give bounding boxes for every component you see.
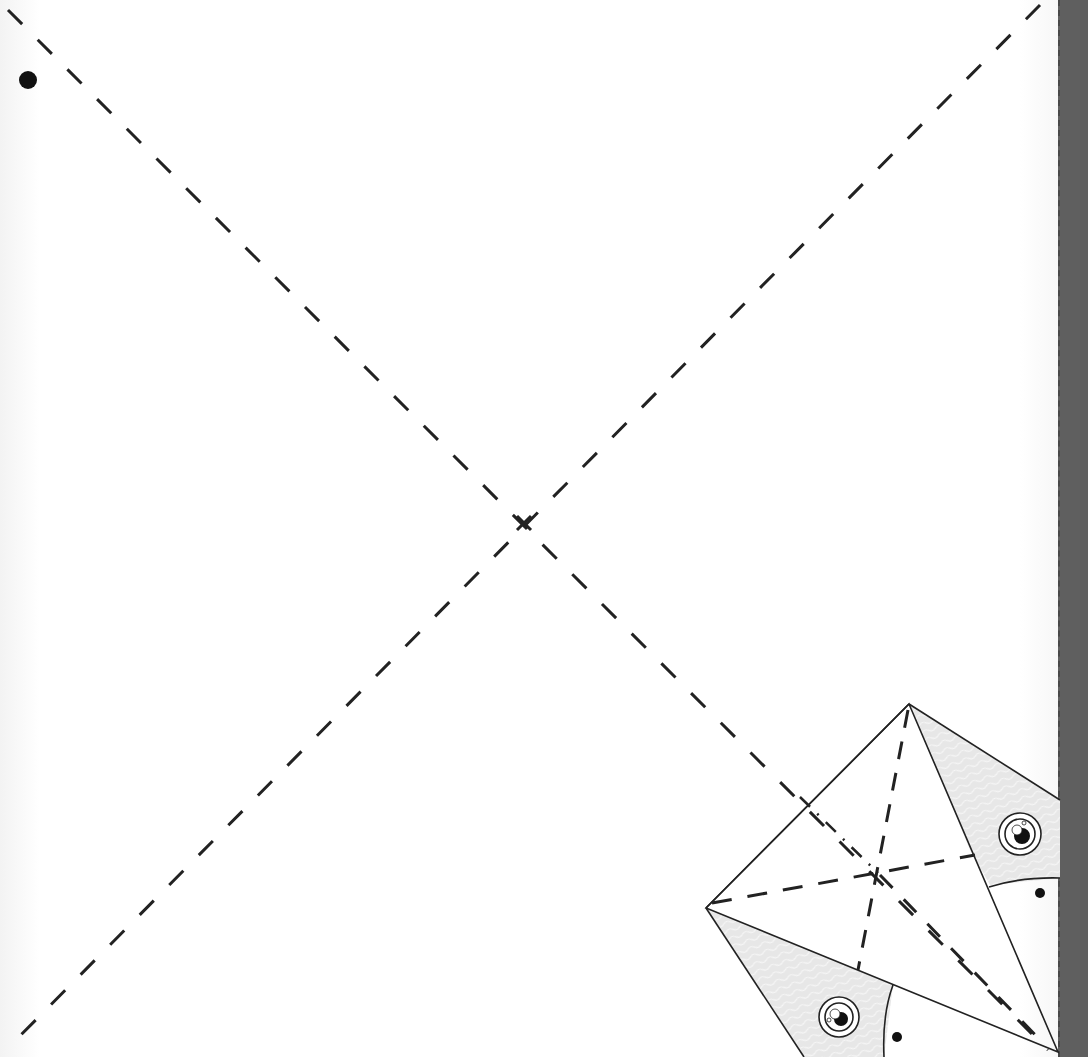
folded-model-inset [706, 704, 1060, 1057]
eye-upper [999, 813, 1041, 855]
patterned-flap-upper [910, 704, 1060, 885]
reference-dot [19, 71, 37, 89]
valley-fold-line-diagonal-1 [8, 10, 1048, 1050]
valley-fold-vertical [858, 710, 908, 970]
mountain-fold-line [800, 797, 878, 873]
reference-dot-lower [892, 1032, 902, 1042]
eye-lower [819, 997, 859, 1037]
valley-fold-line-diagonal-2 [8, 5, 1040, 1048]
reference-dot-upper [1035, 888, 1045, 898]
origami-diagram [0, 0, 1088, 1057]
valley-fold-diagonal [880, 875, 1045, 1045]
